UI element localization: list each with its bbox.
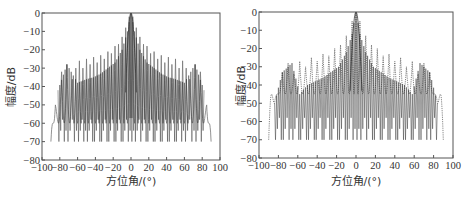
x-tick-label: −40 xyxy=(309,160,325,171)
x-tick-label: 100 xyxy=(212,162,228,173)
y-tick-label: −30 xyxy=(24,63,40,74)
left-chart-svg: 0−10−20−30−40−50−60−70−80 −100−80−60−40−… xyxy=(0,0,233,201)
x-tick-label: −40 xyxy=(87,162,103,173)
x-tick-label: 40 xyxy=(390,160,401,171)
x-tick-label: −80 xyxy=(52,162,68,173)
y-tick-label: −10 xyxy=(241,25,257,36)
x-tick-label: −20 xyxy=(328,160,344,171)
y-tick-label: −70 xyxy=(241,134,257,145)
x-tick-label: 60 xyxy=(179,162,190,173)
x-tick-label: 80 xyxy=(197,162,208,173)
right-pattern-chart: 0−10−20−30−40−50−60−70−80 −100−80−60−40−… xyxy=(233,0,466,201)
x-tick-label: 0 xyxy=(128,162,133,173)
y-tick-label: 0 xyxy=(252,7,257,18)
x-tick-label: 60 xyxy=(409,160,420,171)
x-tick-label: −60 xyxy=(290,160,306,171)
left-plot-lines xyxy=(51,13,211,142)
right-x-ticks: −100−80−60−40−20020406080100 xyxy=(248,155,461,171)
x-tick-label: −80 xyxy=(270,160,286,171)
right-x-axis-title: 方位角/(°) xyxy=(331,174,382,188)
left-y-axis-title: 幅度/dB xyxy=(4,67,18,107)
y-tick-label: −10 xyxy=(24,26,40,37)
left-x-ticks: −100−80−60−40−20020406080100 xyxy=(31,157,228,173)
x-tick-label: 20 xyxy=(144,162,155,173)
x-tick-label: −20 xyxy=(105,162,121,173)
y-tick-label: −20 xyxy=(241,43,257,54)
y-tick-label: −50 xyxy=(24,99,40,110)
right-chart-svg: 0−10−20−30−40−50−60−70−80 −100−80−60−40−… xyxy=(233,0,466,201)
left-pattern-chart: 0−10−20−30−40−50−60−70−80 −100−80−60−40−… xyxy=(0,0,233,201)
x-tick-label: 20 xyxy=(370,160,381,171)
y-tick-label: −60 xyxy=(241,116,257,127)
right-y-axis-title: 幅度/dB xyxy=(234,66,248,106)
x-tick-label: 100 xyxy=(445,160,461,171)
x-tick-label: −100 xyxy=(248,160,270,171)
x-tick-label: 40 xyxy=(161,162,172,173)
y-tick-label: −20 xyxy=(24,44,40,55)
x-tick-label: −60 xyxy=(69,162,85,173)
x-tick-label: 80 xyxy=(428,160,439,171)
y-tick-label: −70 xyxy=(24,136,40,147)
right-plot-lines xyxy=(269,12,444,140)
left-x-axis-title: 方位角/(°) xyxy=(106,174,157,188)
y-tick-label: 0 xyxy=(35,8,40,19)
y-tick-label: −40 xyxy=(24,81,40,92)
x-tick-label: −100 xyxy=(31,162,53,173)
y-tick-label: −60 xyxy=(24,118,40,129)
x-tick-label: 0 xyxy=(353,160,358,171)
